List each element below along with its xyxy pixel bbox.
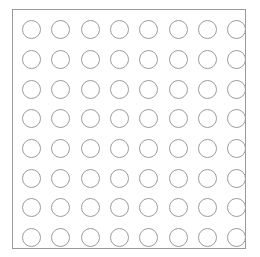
- empty-circle-icon: [198, 169, 217, 188]
- empty-circle-icon: [22, 198, 41, 217]
- board-cell[interactable]: [163, 45, 192, 75]
- board-cell[interactable]: [17, 15, 46, 45]
- board-cell[interactable]: [76, 104, 105, 134]
- board-cell[interactable]: [193, 193, 222, 223]
- empty-circle-icon: [81, 109, 100, 128]
- empty-circle-icon: [169, 109, 188, 128]
- board-cell[interactable]: [193, 74, 222, 104]
- empty-circle-icon: [198, 228, 217, 247]
- board-cell[interactable]: [105, 74, 134, 104]
- empty-circle-icon: [169, 50, 188, 69]
- board-cell[interactable]: [105, 193, 134, 223]
- board-cell[interactable]: [17, 45, 46, 75]
- empty-circle-icon: [81, 198, 100, 217]
- empty-circle-icon: [169, 228, 188, 247]
- empty-circle-icon: [139, 80, 158, 99]
- board-cell[interactable]: [193, 45, 222, 75]
- board-cell[interactable]: [46, 104, 75, 134]
- board-cell[interactable]: [76, 45, 105, 75]
- board-cell[interactable]: [134, 45, 163, 75]
- board-cell[interactable]: [222, 45, 251, 75]
- board-cell[interactable]: [222, 104, 251, 134]
- board-cell[interactable]: [222, 15, 251, 45]
- board-cell[interactable]: [46, 223, 75, 253]
- board-cell[interactable]: [193, 223, 222, 253]
- board-cell[interactable]: [134, 134, 163, 164]
- board-cell[interactable]: [46, 15, 75, 45]
- board-cell[interactable]: [134, 193, 163, 223]
- empty-circle-icon: [81, 80, 100, 99]
- board-cell[interactable]: [76, 193, 105, 223]
- board-cell[interactable]: [46, 163, 75, 193]
- board-cell[interactable]: [193, 104, 222, 134]
- board-cell[interactable]: [163, 223, 192, 253]
- empty-circle-icon: [81, 50, 100, 69]
- board-cell[interactable]: [17, 74, 46, 104]
- board-cell[interactable]: [17, 134, 46, 164]
- board-cell[interactable]: [46, 74, 75, 104]
- empty-circle-icon: [22, 80, 41, 99]
- board-cell[interactable]: [105, 15, 134, 45]
- empty-circle-icon: [110, 20, 129, 39]
- empty-circle-icon: [51, 169, 70, 188]
- empty-circle-icon: [51, 198, 70, 217]
- board-cell[interactable]: [163, 74, 192, 104]
- board-cell[interactable]: [163, 15, 192, 45]
- empty-circle-icon: [110, 80, 129, 99]
- empty-circle-icon: [81, 228, 100, 247]
- empty-circle-icon: [227, 20, 246, 39]
- board-cell[interactable]: [163, 193, 192, 223]
- board-cell[interactable]: [222, 163, 251, 193]
- empty-circle-icon: [139, 109, 158, 128]
- board-cell[interactable]: [46, 193, 75, 223]
- empty-circle-icon: [227, 198, 246, 217]
- board-cell[interactable]: [163, 163, 192, 193]
- empty-circle-icon: [198, 80, 217, 99]
- empty-circle-icon: [198, 109, 217, 128]
- board-cell[interactable]: [17, 223, 46, 253]
- empty-circle-icon: [51, 139, 70, 158]
- board-cell[interactable]: [105, 45, 134, 75]
- empty-circle-icon: [227, 139, 246, 158]
- empty-circle-icon: [51, 20, 70, 39]
- board-cell[interactable]: [105, 223, 134, 253]
- board-cell[interactable]: [222, 223, 251, 253]
- board-cell[interactable]: [222, 193, 251, 223]
- board-cell[interactable]: [17, 193, 46, 223]
- board-cell[interactable]: [105, 163, 134, 193]
- board-cell[interactable]: [134, 163, 163, 193]
- board-cell[interactable]: [76, 74, 105, 104]
- empty-circle-icon: [110, 50, 129, 69]
- board-cell[interactable]: [222, 74, 251, 104]
- board-cell[interactable]: [163, 134, 192, 164]
- board-cell[interactable]: [105, 104, 134, 134]
- board-grid: [17, 15, 251, 253]
- board-cell[interactable]: [17, 163, 46, 193]
- board-cell[interactable]: [46, 45, 75, 75]
- empty-circle-icon: [227, 228, 246, 247]
- empty-circle-icon: [139, 50, 158, 69]
- board-cell[interactable]: [105, 134, 134, 164]
- board-cell[interactable]: [134, 74, 163, 104]
- empty-circle-icon: [110, 228, 129, 247]
- board-cell[interactable]: [222, 134, 251, 164]
- board-cell[interactable]: [193, 163, 222, 193]
- board-cell[interactable]: [76, 134, 105, 164]
- empty-circle-icon: [22, 139, 41, 158]
- board-cell[interactable]: [134, 104, 163, 134]
- empty-circle-icon: [51, 80, 70, 99]
- board-cell[interactable]: [76, 223, 105, 253]
- board-cell[interactable]: [134, 15, 163, 45]
- board-cell[interactable]: [76, 163, 105, 193]
- board-cell[interactable]: [193, 15, 222, 45]
- empty-circle-icon: [81, 139, 100, 158]
- board-cell[interactable]: [46, 134, 75, 164]
- board-cell[interactable]: [17, 104, 46, 134]
- board-cell[interactable]: [193, 134, 222, 164]
- empty-circle-icon: [227, 109, 246, 128]
- board-cell[interactable]: [76, 15, 105, 45]
- board-cell[interactable]: [134, 223, 163, 253]
- board-cell[interactable]: [163, 104, 192, 134]
- empty-circle-icon: [81, 169, 100, 188]
- empty-circle-icon: [198, 198, 217, 217]
